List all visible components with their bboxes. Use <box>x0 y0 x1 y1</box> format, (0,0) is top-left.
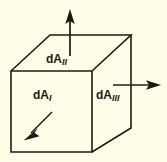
arrow-dA2-up <box>65 9 74 56</box>
label-dA-two-base: dA <box>46 52 62 66</box>
figure-cube-area-vectors: dAI dAII dAIII <box>0 0 167 162</box>
cube-front-face <box>11 71 92 152</box>
label-dA-three: dAIII <box>96 89 120 103</box>
arrow-dA1-head <box>24 128 40 141</box>
arrow-dA1-shaft <box>31 112 52 133</box>
cube-top-face <box>11 35 131 71</box>
label-dA-one-subscript: I <box>49 93 52 103</box>
label-dA-one-base: dA <box>33 88 49 102</box>
label-dA-two-subscript: II <box>62 57 67 67</box>
label-dA-two: dAII <box>46 53 67 67</box>
label-dA-three-base: dA <box>96 88 112 102</box>
arrow-dA3-right <box>113 80 161 89</box>
label-dA-one: dAI <box>33 89 52 103</box>
label-dA-three-subscript: III <box>112 93 120 103</box>
cube-diagram-svg <box>0 0 167 162</box>
arrow-dA1-down-left <box>24 112 53 141</box>
